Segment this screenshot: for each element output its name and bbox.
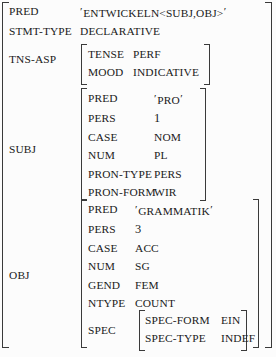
- attr-subj: SUBJ: [9, 140, 42, 158]
- obj-left-bracket: [81, 199, 87, 348]
- tns-asp-right-bracket: [204, 44, 210, 85]
- root-left-bracket: [2, 2, 9, 348]
- attr-obj-pers: PERS: [88, 220, 135, 238]
- subj-left-bracket: [81, 88, 87, 201]
- attr-stmt-type: STMT-TYPE: [9, 22, 80, 40]
- value-subj-pers: 1: [154, 109, 183, 127]
- close-quote: ′: [223, 5, 226, 17]
- attr-mood: MOOD: [88, 63, 133, 81]
- value-obj-num: SG: [135, 257, 213, 275]
- attr-spec-type: SPEC-TYPE: [145, 329, 221, 347]
- value-subj-pred: ′PRO′: [154, 89, 183, 109]
- value-spec-type: INDEF: [221, 329, 255, 347]
- value-pred: ′ENTWICKELN<SUBJ,OBJ>′: [80, 2, 227, 22]
- value-obj-case: ACC: [135, 239, 213, 257]
- value-subj-pron-type: PERS: [154, 165, 183, 183]
- value-obj-pers: 3: [135, 220, 213, 238]
- value-mood: INDICATIVE: [133, 63, 199, 81]
- attr-subj-pred: PRED: [88, 89, 154, 109]
- attr-obj-case: CASE: [88, 239, 135, 257]
- attr-subj-pron-form: PRON-FORM: [88, 183, 154, 201]
- value-stmt-type: DECLARATIVE: [80, 22, 227, 40]
- value-spec-form: EIN: [221, 311, 255, 329]
- value-subj-case: NOM: [154, 128, 183, 146]
- attr-subj-case: CASE: [88, 128, 154, 146]
- f-structure-diagram: PRED ′ENTWICKELN<SUBJ,OBJ>′ STMT-TYPE DE…: [0, 0, 276, 357]
- attr-tns-asp: TNS-ASP: [9, 41, 80, 78]
- tns-asp-matrix: TENSE PERF MOOD INDICATIVE: [88, 45, 199, 82]
- value-obj-ntype: COUNT: [135, 294, 213, 312]
- close-quote: ′: [210, 203, 213, 215]
- attr-obj-gend: GEND: [88, 276, 135, 294]
- attr-subj-pers: PERS: [88, 109, 154, 127]
- attr-tense: TENSE: [88, 45, 133, 63]
- attr-subj-pron-type: PRON-TYPE: [88, 165, 154, 183]
- value-tense: PERF: [133, 45, 199, 63]
- value-obj-pred-text: GRAMMATIK: [138, 205, 210, 217]
- value-subj-pred-text: PRO: [157, 94, 180, 106]
- attr-obj-pred: PRED: [88, 200, 135, 220]
- root-right-bracket: [265, 2, 272, 348]
- attr-obj-spec: SPEC: [88, 312, 135, 349]
- value-obj-pred: ′GRAMMATIK′: [135, 200, 213, 220]
- attr-obj: OBJ: [9, 266, 36, 284]
- value-pred-text: ENTWICKELN<SUBJ,OBJ>: [83, 7, 223, 19]
- spec-matrix: SPEC-FORM EIN SPEC-TYPE INDEF: [145, 311, 255, 348]
- attr-subj-num: NUM: [88, 146, 154, 164]
- value-subj-pron-form: WIR: [154, 183, 183, 201]
- subj-matrix: PRED ′PRO′ PERS 1 CASE NOM NUM PL PRON-T…: [88, 89, 183, 201]
- attr-spec-form: SPEC-FORM: [145, 311, 221, 329]
- subj-right-bracket: [200, 88, 206, 201]
- attr-pred: PRED: [9, 2, 80, 22]
- attr-obj-num: NUM: [88, 257, 135, 275]
- close-quote: ′: [180, 92, 183, 104]
- attr-obj-ntype: NTYPE: [88, 294, 135, 312]
- value-obj-gend: FEM: [135, 276, 213, 294]
- value-subj-num: PL: [154, 146, 183, 164]
- tns-asp-left-bracket: [81, 44, 87, 85]
